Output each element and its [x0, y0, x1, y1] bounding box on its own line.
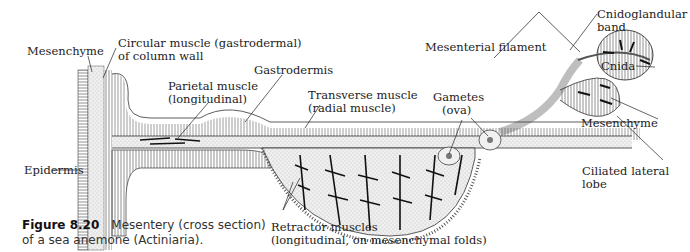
label-epidermis: Epidermis — [24, 164, 84, 177]
caption-line-1: Mesentery (cross section) — [111, 218, 265, 232]
label-gastrodermis: Gastrodermis — [254, 64, 333, 77]
label-transverse-2: (radial muscle) — [308, 102, 396, 115]
figure-caption: Figure 8.20Mesentery (cross section) of … — [22, 218, 266, 248]
label-cnida: Cnida — [601, 60, 635, 73]
caption-line-2: of a sea anemone (Actiniaria). — [22, 233, 203, 247]
label-mesenterial-filament: Mesenterial filament — [425, 41, 546, 54]
label-retractor-2: (longitudinal, on mesenchymal folds) — [271, 234, 487, 247]
label-mesenchyme-right: Mesenchyme — [581, 117, 658, 130]
label-parietal-2: (longitudinal) — [168, 93, 247, 106]
label-gametes-2: (ova) — [442, 104, 471, 117]
label-cnidoglandular-2: band — [597, 21, 626, 34]
label-mesenchyme-left: Mesenchyme — [27, 45, 104, 58]
label-ciliated-2: lobe — [582, 178, 607, 191]
label-circular-muscle-2: of column wall — [118, 50, 203, 63]
figure-number: Figure 8.20 — [22, 218, 99, 232]
